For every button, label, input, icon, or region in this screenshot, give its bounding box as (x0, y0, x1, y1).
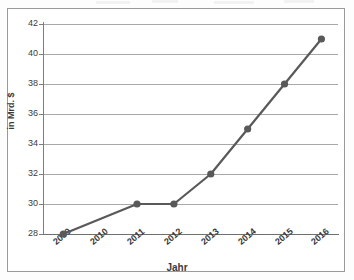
data-point-2009 (60, 230, 67, 237)
data-point-2012 (170, 200, 177, 207)
data-point-2016 (318, 35, 325, 42)
series-markers (60, 35, 325, 237)
series-line (63, 39, 321, 234)
data-point-2014 (244, 125, 251, 132)
data-point-2015 (281, 80, 288, 87)
data-series-layer (0, 0, 354, 280)
chart-screenshot: 2830323436384042 in Mrd. $ 2009201020112… (0, 0, 354, 280)
data-point-2011 (133, 200, 140, 207)
data-point-2013 (207, 170, 214, 177)
